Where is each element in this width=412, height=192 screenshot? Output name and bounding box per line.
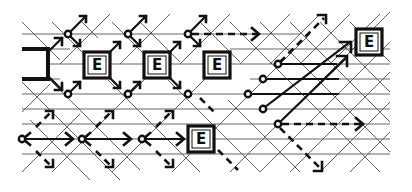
e-box-4 bbox=[356, 29, 382, 55]
node bbox=[245, 91, 251, 97]
lattice-diagram bbox=[0, 0, 412, 192]
node bbox=[260, 106, 266, 112]
e-box-5 bbox=[188, 126, 214, 152]
e-box-1 bbox=[84, 52, 110, 78]
node bbox=[275, 121, 281, 127]
node bbox=[19, 136, 25, 142]
node bbox=[185, 91, 191, 97]
node bbox=[260, 76, 266, 82]
e-box-2 bbox=[144, 52, 170, 78]
node bbox=[275, 61, 281, 67]
node bbox=[185, 31, 191, 37]
node bbox=[79, 136, 85, 142]
right-arrows bbox=[192, 15, 363, 171]
node bbox=[125, 91, 131, 97]
node bbox=[65, 31, 71, 37]
e-box-3 bbox=[204, 52, 230, 78]
node bbox=[139, 136, 145, 142]
node bbox=[65, 91, 71, 97]
node bbox=[125, 31, 131, 37]
